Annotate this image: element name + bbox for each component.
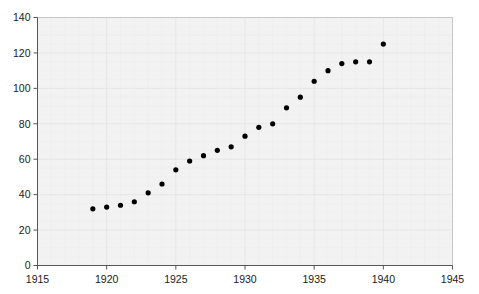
x-axis-tick-label: 1940: [372, 273, 396, 285]
data-point: [173, 167, 178, 172]
x-axis-tick-label: 1930: [233, 273, 257, 285]
data-point: [132, 199, 137, 204]
data-point: [104, 204, 109, 209]
data-point: [270, 121, 275, 126]
y-axis-tick-label: 140: [13, 11, 31, 23]
y-axis-tick-label: 100: [13, 82, 31, 94]
data-point: [298, 95, 303, 100]
y-axis-tick-label: 20: [19, 224, 31, 236]
y-axis-group: 020406080100120140: [13, 11, 38, 271]
y-axis-tick-label: 40: [19, 188, 31, 200]
data-point: [159, 181, 164, 186]
data-point: [256, 125, 261, 130]
chart-canvas: 020406080100120140 191519201925193019351…: [0, 0, 479, 294]
data-point: [201, 153, 206, 158]
data-point: [187, 158, 192, 163]
data-point: [146, 190, 151, 195]
data-point: [118, 203, 123, 208]
x-axis-tick-label: 1920: [95, 273, 119, 285]
y-axis-tick-label: 60: [19, 153, 31, 165]
data-point: [284, 105, 289, 110]
data-point: [381, 41, 386, 46]
data-point: [325, 68, 330, 73]
data-point: [367, 59, 372, 64]
x-axis-tick-label: 1935: [302, 273, 326, 285]
y-axis-tick-label: 80: [19, 118, 31, 130]
y-axis-tick-label: 0: [25, 259, 31, 271]
y-axis-tick-label: 120: [13, 47, 31, 59]
data-point: [215, 148, 220, 153]
data-point: [353, 59, 358, 64]
x-axis-tick-label: 1925: [164, 273, 188, 285]
data-point: [229, 144, 234, 149]
data-point: [242, 134, 247, 139]
data-point: [90, 206, 95, 211]
x-axis-group: 1915192019251930193519401945: [26, 266, 465, 285]
x-axis-tick-label: 1915: [26, 273, 50, 285]
scatter-chart: 020406080100120140 191519201925193019351…: [0, 0, 479, 294]
data-point: [312, 79, 317, 84]
data-point: [339, 61, 344, 66]
x-axis-tick-label: 1945: [441, 273, 465, 285]
